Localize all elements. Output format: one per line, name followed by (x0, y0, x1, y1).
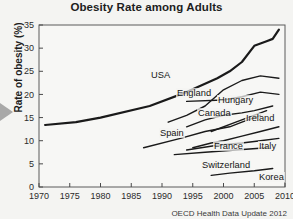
svg-text:5: 5 (29, 159, 34, 169)
svg-text:2010: 2010 (275, 191, 293, 201)
svg-text:1975: 1975 (60, 191, 80, 201)
series-label-korea: Korea (258, 172, 285, 182)
svg-text:30: 30 (24, 43, 34, 53)
series-label-usa: USA (150, 70, 171, 80)
svg-text:2000: 2000 (213, 191, 233, 201)
svg-text:1985: 1985 (121, 191, 141, 201)
svg-text:1980: 1980 (90, 191, 110, 201)
series-label-switzerland: Switzerland (201, 160, 251, 170)
svg-text:20: 20 (24, 90, 34, 100)
svg-text:25: 25 (24, 66, 34, 76)
series-label-ireland: Ireland (245, 113, 275, 123)
series-label-canada: Canada (197, 108, 232, 118)
series-label-england: England (176, 88, 212, 98)
obesity-line-chart: Obesity Rate among Adults Rate of obesit… (0, 0, 293, 219)
svg-text:10: 10 (24, 136, 34, 146)
svg-text:15: 15 (24, 113, 34, 123)
series-label-spain: Spain (159, 128, 185, 138)
svg-text:1995: 1995 (183, 191, 203, 201)
plot-area: 0510152025303519701975198019851990199520… (0, 0, 293, 219)
series-label-italy: Italy (258, 141, 277, 151)
series-label-hungary: Hungary (217, 95, 254, 105)
series-label-france: France (213, 141, 244, 151)
source-note: OECD Health Data Update 2012 (171, 209, 287, 218)
svg-text:1990: 1990 (152, 191, 172, 201)
svg-text:1970: 1970 (29, 191, 49, 201)
svg-text:2005: 2005 (244, 191, 264, 201)
svg-text:35: 35 (24, 20, 34, 30)
